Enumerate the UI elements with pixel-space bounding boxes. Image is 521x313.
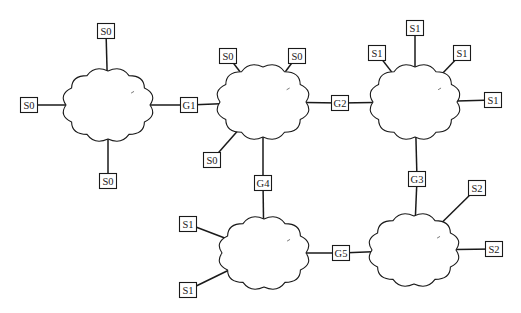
station-node: S0 — [100, 174, 117, 189]
station-node: S2 — [469, 181, 486, 196]
station-label: S0 — [206, 155, 217, 166]
network-diagram: G1G2G3G4G5S0S0S0S0S0S0S1S1S1S1S1S1S2S2 — [0, 0, 521, 313]
station-label: S2 — [488, 244, 499, 255]
station-label: S0 — [23, 100, 34, 111]
gateway-node: G5 — [333, 246, 350, 261]
station-label: S1 — [409, 23, 420, 34]
station-label: S1 — [182, 285, 193, 296]
station-label: S1 — [487, 95, 498, 106]
station-node: S1 — [454, 46, 471, 61]
station-node: S2 — [486, 242, 503, 257]
station-label: S0 — [100, 26, 111, 37]
station-label: S1 — [371, 48, 382, 59]
gateway-label: G2 — [334, 98, 347, 109]
station-node: S0 — [21, 98, 38, 113]
gateway-node: G2 — [332, 96, 349, 111]
station-node: S0 — [204, 153, 221, 168]
gateway-label: G1 — [183, 100, 196, 111]
network-cloud — [217, 65, 309, 139]
gateway-label: G3 — [411, 174, 424, 185]
station-label: S1 — [182, 219, 193, 230]
gateway-node: G4 — [255, 176, 272, 191]
network-cloud — [370, 65, 459, 139]
network-cloud — [219, 217, 308, 289]
station-node: S0 — [289, 49, 306, 64]
station-node: S1 — [180, 217, 197, 232]
station-node: S0 — [98, 24, 115, 39]
station-node: S1 — [485, 93, 502, 108]
station-node: S1 — [180, 283, 197, 298]
station-label: S1 — [456, 48, 467, 59]
gateway-label: G5 — [335, 248, 348, 259]
gateway-node: G1 — [181, 98, 198, 113]
station-node: S0 — [220, 49, 237, 64]
station-node: S1 — [407, 21, 424, 36]
station-label: S0 — [102, 176, 113, 187]
gateway-label: G4 — [257, 178, 271, 189]
gateway-node: G3 — [409, 172, 426, 187]
station-label: S0 — [222, 51, 233, 62]
station-label: S0 — [291, 51, 302, 62]
network-cloud — [369, 214, 458, 286]
station-node: S1 — [369, 46, 386, 61]
network-cloud — [63, 69, 152, 141]
station-label: S2 — [471, 183, 482, 194]
